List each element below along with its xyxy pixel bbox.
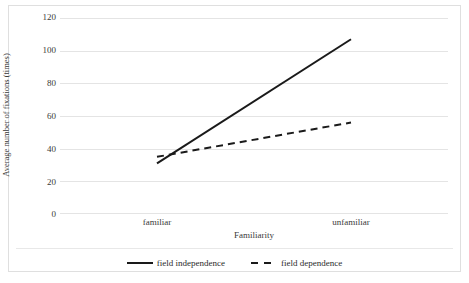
- plot-area: [60, 18, 448, 214]
- y-tick-label-120: 120: [16, 13, 56, 22]
- legend-label-field-independence: field independence: [157, 258, 225, 268]
- chart-figure: Average number of fixations (times) 120 …: [0, 0, 469, 283]
- dashed-line-icon: [251, 259, 277, 267]
- x-axis-title: Familiarity: [60, 230, 448, 240]
- y-tick-label-60: 60: [16, 112, 56, 121]
- legend-item-field-independence[interactable]: field independence: [127, 258, 225, 268]
- legend-item-field-dependence[interactable]: field dependence: [251, 258, 342, 268]
- x-tick-label-familiar: familiar: [97, 216, 217, 228]
- legend-label-field-dependence: field dependence: [281, 258, 342, 268]
- series-overlay: [60, 18, 448, 214]
- x-axis-ticks: familiar unfamiliar: [60, 216, 448, 230]
- solid-line-icon: [127, 259, 153, 267]
- y-axis-ticks: 120 100 80 60 40 20 0: [14, 18, 56, 214]
- y-tick-label-40: 40: [16, 145, 56, 154]
- y-tick-label-100: 100: [16, 46, 56, 55]
- y-tick-label-0: 0: [16, 210, 56, 219]
- y-tick-label-80: 80: [16, 79, 56, 88]
- legend-separator: [16, 248, 453, 249]
- series-line-field-independence: [157, 39, 351, 163]
- x-tick-label-unfamiliar: unfamiliar: [291, 216, 411, 228]
- chart-legend: field independence field dependence: [8, 256, 461, 270]
- y-tick-label-20: 20: [16, 178, 56, 187]
- y-axis-title: Average number of fixations (times): [1, 35, 11, 195]
- series-line-field-dependence: [157, 123, 351, 157]
